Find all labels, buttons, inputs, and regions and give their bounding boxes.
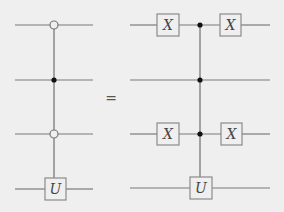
left-u-gate: U <box>45 178 66 200</box>
left-circuit: U <box>15 21 93 200</box>
x-label: X <box>162 17 174 33</box>
right-u-gate: U <box>190 177 212 199</box>
circuit-diagram: U = X X X <box>0 0 284 212</box>
right-filled-control-wire-1 <box>197 22 202 27</box>
x-label: X <box>226 126 238 142</box>
x-label: X <box>225 17 237 33</box>
left-open-control-wire-1 <box>50 21 58 29</box>
left-u-label: U <box>50 181 63 197</box>
left-open-control-wire-3 <box>50 130 58 138</box>
right-x-gate-wire-1-before: X <box>157 14 179 36</box>
left-filled-control-wire-2 <box>51 77 56 82</box>
right-filled-control-wire-2 <box>197 77 202 82</box>
right-circuit: X X X X U <box>130 14 270 199</box>
right-x-gate-wire-3-before: X <box>157 123 179 145</box>
x-label: X <box>162 126 174 142</box>
right-x-gate-wire-1-after: X <box>220 14 241 36</box>
right-filled-control-wire-3 <box>197 131 202 136</box>
right-x-gate-wire-3-after: X <box>221 123 242 145</box>
right-u-label: U <box>195 180 208 196</box>
equals-sign: = <box>105 90 117 106</box>
